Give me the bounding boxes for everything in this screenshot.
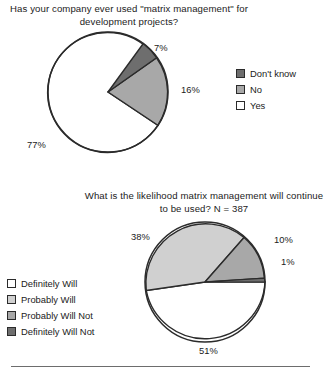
chart-2-pie-svg xyxy=(143,220,267,344)
legend-label-definitely-will-not: Definitely Will Not xyxy=(21,326,94,337)
chart-1-legend: Don't know No Yes xyxy=(236,66,296,114)
chart-1-label-dont-know: 7% xyxy=(154,42,168,53)
legend-item-probably-will-not: Probably Will Not xyxy=(7,308,94,323)
legend-label-dont-know: Don't know xyxy=(250,68,296,79)
legend-swatch-definitely-will xyxy=(7,279,16,288)
chart-2-pie xyxy=(143,220,267,344)
chart-2-label-probably-will-not: 10% xyxy=(274,234,293,245)
chart-2-title: What is the likelihood matrix management… xyxy=(82,190,326,215)
legend-swatch-dont-know xyxy=(236,69,245,78)
bottom-divider xyxy=(11,366,310,367)
legend-label-no: No xyxy=(250,84,262,95)
legend-label-definitely-will: Definitely Will xyxy=(21,278,77,289)
chart-1-label-yes: 77% xyxy=(27,139,46,150)
chart-2-label-probably-will: 38% xyxy=(131,231,150,242)
figure: Has your company ever used "matrix manag… xyxy=(0,0,326,382)
legend-item-yes: Yes xyxy=(236,98,296,113)
chart-2-label-definitely-will-not: 1% xyxy=(281,256,295,267)
chart-2-legend: Definitely Will Probably Will Probably W… xyxy=(7,276,94,340)
legend-item-definitely-will-not: Definitely Will Not xyxy=(7,324,94,339)
legend-swatch-definitely-will-not xyxy=(7,327,16,336)
legend-swatch-yes xyxy=(236,101,245,110)
legend-label-probably-will-not: Probably Will Not xyxy=(21,310,93,321)
legend-swatch-probably-will-not xyxy=(7,311,16,320)
chart-1-pie xyxy=(46,30,170,154)
legend-label-yes: Yes xyxy=(250,100,265,111)
legend-item-dont-know: Don't know xyxy=(236,66,296,81)
legend-item-no: No xyxy=(236,82,296,97)
legend-item-definitely-will: Definitely Will xyxy=(7,276,94,291)
chart-1-title: Has your company ever used "matrix manag… xyxy=(8,3,250,28)
chart-1-label-no: 16% xyxy=(181,84,200,95)
legend-label-probably-will: Probably Will xyxy=(21,294,76,305)
legend-swatch-probably-will xyxy=(7,295,16,304)
legend-item-probably-will: Probably Will xyxy=(7,292,94,307)
chart-2-label-definitely-will: 51% xyxy=(199,345,218,356)
chart-1-pie-svg xyxy=(46,30,170,154)
legend-swatch-no xyxy=(236,85,245,94)
chart-2-slice-definitely-will xyxy=(146,282,265,339)
